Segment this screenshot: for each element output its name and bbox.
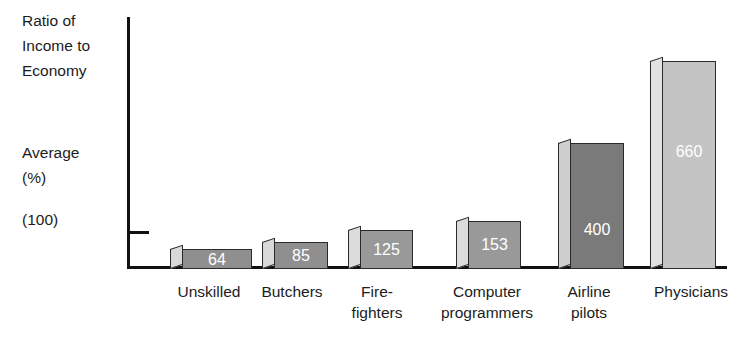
bar-chart: Ratio of Income to Economy Average (%) (… <box>0 0 737 350</box>
bar-face <box>182 249 252 269</box>
bar: 660 <box>650 61 716 269</box>
bar-face <box>274 242 328 269</box>
bar-face <box>570 143 624 269</box>
bar: 153 <box>456 221 521 269</box>
category-label: Physicians <box>621 281 737 302</box>
bar-face <box>662 61 716 269</box>
bar-face <box>360 230 413 269</box>
bar-face <box>468 221 521 269</box>
bar: 64 <box>170 249 252 269</box>
bar: 400 <box>558 143 624 269</box>
plot-area: 64Unskilled85Butchers125Fire- fighters15… <box>0 0 737 350</box>
bar: 125 <box>348 230 413 269</box>
bar: 85 <box>262 242 328 269</box>
